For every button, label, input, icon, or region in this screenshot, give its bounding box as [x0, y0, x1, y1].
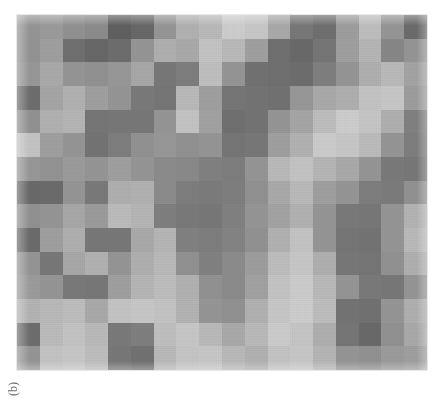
heatmap-cell — [63, 62, 86, 86]
heatmap-cell — [154, 39, 177, 63]
heatmap-cell — [199, 39, 222, 63]
heatmap-cell — [313, 299, 336, 323]
heatmap-cell — [404, 110, 427, 134]
heatmap-cell — [176, 346, 199, 370]
heatmap-cell — [199, 15, 222, 39]
heatmap-cell — [154, 275, 177, 299]
heatmap-cell — [131, 39, 154, 63]
heatmap-cell — [336, 228, 359, 252]
heatmap-cell — [290, 39, 313, 63]
heatmap-cell — [336, 110, 359, 134]
heatmap-cell — [359, 252, 382, 276]
heatmap-cell — [199, 157, 222, 181]
heatmap-cell — [268, 204, 291, 228]
heatmap-cell — [154, 86, 177, 110]
heatmap-cell — [131, 275, 154, 299]
heatmap-cell — [154, 252, 177, 276]
heatmap-cell — [313, 252, 336, 276]
heatmap-cell — [154, 133, 177, 157]
heatmap-cell — [404, 62, 427, 86]
heatmap-cell — [176, 15, 199, 39]
heatmap-cell — [40, 252, 63, 276]
heatmap-cell — [63, 252, 86, 276]
heatmap-cell — [404, 252, 427, 276]
heatmap-cell — [108, 323, 131, 347]
heatmap-cell — [359, 133, 382, 157]
heatmap-cell — [176, 39, 199, 63]
heatmap-cell — [290, 133, 313, 157]
heatmap-cell — [63, 181, 86, 205]
heatmap-cell — [17, 157, 40, 181]
heatmap-cell — [222, 323, 245, 347]
heatmap-cell — [268, 252, 291, 276]
heatmap-cell — [313, 62, 336, 86]
heatmap-cell — [85, 299, 108, 323]
heatmap-cell — [176, 110, 199, 134]
heatmap-cell — [336, 252, 359, 276]
heatmap-cell — [199, 323, 222, 347]
heatmap-cell — [154, 323, 177, 347]
heatmap-cell — [336, 15, 359, 39]
heatmap-cell — [154, 62, 177, 86]
heatmap-cell — [108, 15, 131, 39]
heatmap-cell — [40, 228, 63, 252]
heatmap-cell — [108, 252, 131, 276]
heatmap-cell — [131, 181, 154, 205]
heatmap-cell — [40, 133, 63, 157]
heatmap-cell — [176, 86, 199, 110]
heatmap-cell — [313, 181, 336, 205]
heatmap-cell — [245, 62, 268, 86]
heatmap-cell — [63, 299, 86, 323]
heatmap-cell — [17, 252, 40, 276]
heatmap-cell — [381, 204, 404, 228]
heatmap-cell — [131, 62, 154, 86]
heatmap-cell — [290, 299, 313, 323]
heatmap-cell — [85, 86, 108, 110]
heatmap-cell — [290, 204, 313, 228]
heatmap-cell — [336, 323, 359, 347]
heatmap-cell — [404, 86, 427, 110]
heatmap-cell — [290, 110, 313, 134]
heatmap-cell — [176, 275, 199, 299]
heatmap-cell — [131, 323, 154, 347]
heatmap-cell — [199, 275, 222, 299]
heatmap-cell — [222, 228, 245, 252]
heatmap-cell — [17, 323, 40, 347]
heatmap-cell — [131, 252, 154, 276]
heatmap-cell — [108, 228, 131, 252]
heatmap-cell — [85, 181, 108, 205]
heatmap-cell — [359, 110, 382, 134]
heatmap-cell — [199, 62, 222, 86]
heatmap-cell — [381, 252, 404, 276]
heatmap-cell — [245, 228, 268, 252]
heatmap-cell — [176, 204, 199, 228]
heatmap-cell — [222, 15, 245, 39]
heatmap-cell — [154, 228, 177, 252]
heatmap-cell — [108, 62, 131, 86]
heatmap-cell — [154, 157, 177, 181]
heatmap-cell — [131, 204, 154, 228]
heatmap-cell — [85, 228, 108, 252]
heatmap-cell — [290, 62, 313, 86]
heatmap-cell — [176, 299, 199, 323]
heatmap-cell — [17, 228, 40, 252]
heatmap-cell — [381, 86, 404, 110]
heatmap-cell — [290, 86, 313, 110]
heatmap-cell — [222, 62, 245, 86]
heatmap-cell — [313, 346, 336, 370]
heatmap-cell — [222, 86, 245, 110]
heatmap-cell — [268, 15, 291, 39]
heatmap-cell — [17, 110, 40, 134]
heatmap-cell — [290, 346, 313, 370]
heatmap-cell — [85, 275, 108, 299]
heatmap-cell — [63, 15, 86, 39]
heatmap-cell — [40, 15, 63, 39]
heatmap-cell — [108, 275, 131, 299]
heatmap-cell — [154, 299, 177, 323]
heatmap-cell — [245, 275, 268, 299]
heatmap-cell — [404, 15, 427, 39]
heatmap-cell — [108, 39, 131, 63]
heatmap-cell — [63, 133, 86, 157]
heatmap-cell — [245, 15, 268, 39]
heatmap-cell — [313, 228, 336, 252]
